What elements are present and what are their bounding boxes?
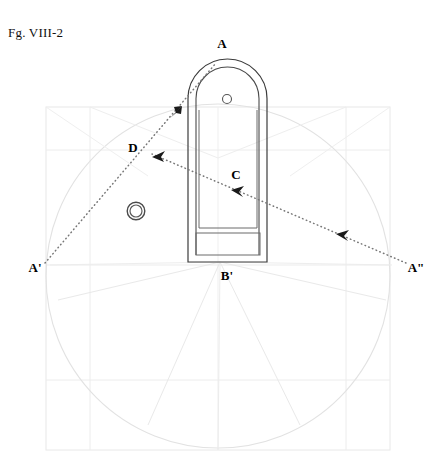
figure-caption: Fg. VIII-2	[8, 25, 63, 41]
arrow-toward-d-icon	[152, 151, 165, 162]
point-label-c: C	[231, 168, 240, 181]
arrow-toward-a2-icon	[336, 230, 349, 241]
point-label-b-prime: B'	[221, 269, 233, 282]
figure-root: Fg. VIII-2 A D C A' B' A"	[0, 0, 440, 458]
point-label-a-double-prime: A"	[408, 261, 425, 274]
sight-lines-layer	[0, 0, 440, 458]
point-label-d: D	[128, 141, 137, 154]
arrow-toward-c-icon	[231, 186, 244, 197]
sight-line-a-double-prime	[152, 154, 406, 263]
point-label-a-prime: A'	[29, 261, 42, 274]
arrow-toward-a-icon	[170, 106, 182, 118]
point-label-a: A	[217, 37, 226, 50]
sight-line-a-prime	[45, 63, 216, 263]
